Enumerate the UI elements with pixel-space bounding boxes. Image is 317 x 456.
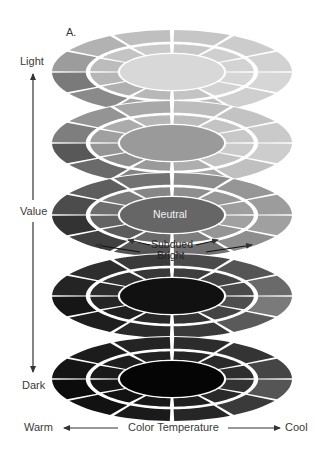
- temperature-axis-title: Color Temperature: [128, 422, 219, 433]
- color-disc-dark-mid: [51, 253, 293, 339]
- subdued-ring-label: Subdued: [151, 239, 193, 250]
- bright-ring-label: Bright: [157, 250, 184, 261]
- figure-label: A.: [66, 26, 76, 38]
- neutral-center: [120, 278, 224, 314]
- color-disc-dark: [51, 336, 293, 422]
- value-axis-title: Value: [20, 205, 47, 218]
- neutral-center: [120, 54, 224, 90]
- temperature-axis-warm-label: Warm: [24, 422, 53, 433]
- value-axis-dark-label: Dark: [22, 380, 45, 391]
- color-value-temperature-diagram: [0, 0, 317, 456]
- neutral-center: [120, 125, 224, 161]
- temperature-axis-cool-label: Cool: [285, 422, 308, 433]
- neutral-center: [120, 361, 224, 397]
- value-axis-light-label: Light: [20, 56, 44, 67]
- disc-stack: [51, 29, 293, 422]
- neutral-center-label: Neutral: [153, 209, 187, 220]
